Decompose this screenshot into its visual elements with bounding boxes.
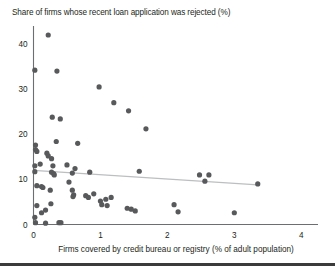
data-point [34, 149, 39, 154]
data-point [43, 221, 48, 226]
data-point [40, 185, 45, 190]
data-point [175, 209, 180, 214]
x-tick-label: 1 [98, 231, 103, 240]
data-point [34, 203, 39, 208]
data-point [32, 169, 37, 174]
data-point [86, 195, 91, 200]
x-tick-label: 3 [232, 231, 237, 240]
data-point [133, 208, 138, 213]
data-point [32, 215, 37, 220]
y-tick-label: 0 [23, 221, 28, 230]
y-tick-label: 40 [18, 40, 28, 49]
data-point [70, 188, 75, 193]
data-point [64, 162, 69, 167]
data-point [48, 188, 53, 193]
data-point [143, 126, 148, 131]
data-point [109, 195, 114, 200]
data-point [34, 183, 39, 188]
data-point [54, 69, 59, 74]
y-tick-labels: 010203040 [18, 40, 28, 229]
data-point [70, 170, 75, 175]
data-point [72, 166, 77, 171]
data-point [202, 179, 207, 184]
data-point [97, 84, 102, 89]
data-point [87, 170, 92, 175]
data-point [232, 210, 237, 215]
y-tick-label: 10 [18, 175, 28, 184]
data-point [137, 169, 142, 174]
data-point [99, 202, 104, 207]
scatter-plot: 010203040 01234 Firms covered by credit … [0, 0, 335, 266]
data-point [39, 210, 44, 215]
data-point [32, 163, 37, 168]
data-point [171, 202, 176, 207]
data-point [103, 197, 108, 202]
data-point [49, 156, 54, 161]
data-point [46, 32, 51, 37]
data-point [54, 139, 59, 144]
data-point [50, 115, 55, 120]
data-point [75, 141, 80, 146]
data-point [33, 143, 38, 148]
data-point [111, 100, 116, 105]
data-point [70, 194, 75, 199]
data-point [32, 68, 37, 73]
data-point [66, 179, 71, 184]
x-tick-label: 2 [165, 231, 170, 240]
y-tick-label: 30 [18, 85, 28, 94]
y-tick-label: 20 [18, 130, 28, 139]
data-point [105, 203, 110, 208]
data-point [126, 108, 131, 113]
data-point [48, 201, 53, 206]
data-point [58, 116, 63, 121]
data-point [33, 220, 38, 225]
data-point [38, 161, 43, 166]
data-point [52, 172, 57, 177]
chart-figure: Share of firms whose recent loan applica… [0, 0, 335, 266]
x-tick-label: 0 [31, 231, 36, 240]
data-point [255, 181, 260, 186]
data-point [58, 220, 63, 225]
data-point [50, 163, 55, 168]
data-point [197, 172, 202, 177]
x-tick-label: 4 [299, 231, 304, 240]
data-point [206, 172, 211, 177]
x-tick-labels: 01234 [31, 231, 304, 240]
data-points-group [32, 32, 260, 225]
data-point [91, 191, 96, 196]
x-axis-title: Firms covered by credit bureau or regist… [58, 245, 294, 254]
